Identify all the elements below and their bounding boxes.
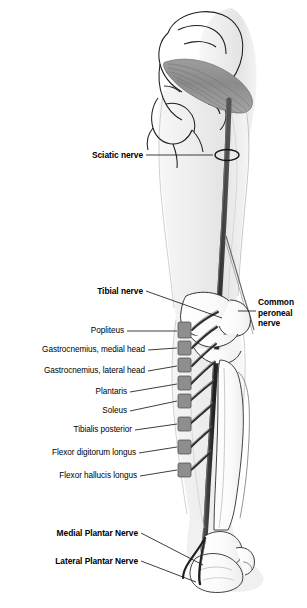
label-gastrocnemius-lateral-head: Gastrocnemius, lateral head <box>0 366 145 376</box>
leader-plantaris <box>130 384 177 392</box>
label-common-peroneal-nerve: Common peroneal nerve <box>258 297 307 329</box>
muscle-box-plantaris <box>178 376 191 390</box>
leader-soleus <box>130 401 177 411</box>
muscle-attachment-boxes <box>178 322 191 477</box>
muscle-box-gastroc-medial <box>178 341 191 355</box>
muscle-box-popliteus <box>178 322 191 338</box>
muscle-box-gastroc-lateral <box>178 358 191 372</box>
label-flexor-hallucis-longus: Flexor hallucis longus <box>0 471 137 481</box>
leader-flexor-digitorum <box>139 447 177 453</box>
label-tibial-nerve: Tibial nerve <box>0 286 143 296</box>
tibia-bone <box>214 360 243 530</box>
muscle-box-flexor-digitorum <box>178 440 191 454</box>
label-tibialis-posterior: Tibialis posterior <box>0 425 132 435</box>
leader-flexor-hallucis <box>140 470 177 476</box>
label-lateral-plantar-nerve: Lateral Plantar Nerve <box>0 556 138 566</box>
label-plantaris: Plantaris <box>0 387 127 397</box>
label-medial-plantar-nerve: Medial Plantar Nerve <box>0 528 138 538</box>
muscle-box-tibialis-posterior <box>178 417 191 431</box>
muscle-box-soleus <box>178 394 191 408</box>
label-gastrocnemius-medial-head: Gastrocnemius, medial head <box>0 345 145 355</box>
muscle-box-flexor-hallucis <box>178 463 191 477</box>
label-flexor-digitorum-longus: Flexor digitorum longus <box>0 448 136 458</box>
leader-tibialis-posterior <box>135 424 177 430</box>
label-sciatic-nerve: Sciatic nerve <box>0 150 143 160</box>
label-soleus: Soleus <box>0 406 127 416</box>
label-popliteus: Popliteus <box>0 326 124 336</box>
